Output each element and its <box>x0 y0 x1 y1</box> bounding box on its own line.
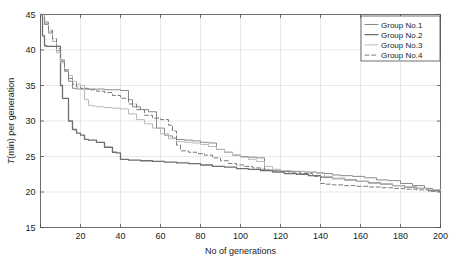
x-tick-label: 120 <box>273 231 288 241</box>
x-tick-label: 80 <box>195 231 205 241</box>
y-tick-label: 30 <box>25 116 35 126</box>
legend-label-3[interactable]: Group No.3 <box>381 41 423 50</box>
x-tick-label: 200 <box>433 231 448 241</box>
figure-container: 15202530354045 2040608010012014016018020… <box>0 0 457 263</box>
legend-label-2[interactable]: Group No.2 <box>381 31 423 40</box>
y-tick-label: 45 <box>25 10 35 20</box>
legend-label-1[interactable]: Group No.1 <box>381 21 423 30</box>
legend-label-4[interactable]: Group No.4 <box>381 51 423 60</box>
x-tick-label: 140 <box>313 231 328 241</box>
x-axis-label: No of generations <box>205 246 277 256</box>
y-axis-label: T(min) per generation <box>6 78 16 165</box>
x-tick-label: 100 <box>233 231 248 241</box>
x-tick-label: 40 <box>115 231 125 241</box>
x-tick-label: 160 <box>353 231 368 241</box>
y-tick-label: 40 <box>25 45 35 55</box>
y-tick-label: 25 <box>25 152 35 162</box>
chart-legend[interactable]: Group No.1Group No.2Group No.3Group No.4 <box>361 16 440 61</box>
y-tick-label: 15 <box>25 223 35 233</box>
x-tick-label: 60 <box>155 231 165 241</box>
x-tick-label: 180 <box>393 231 408 241</box>
y-axis-label-rest: (min) per generation <box>6 78 16 159</box>
y-tick-label: 35 <box>25 81 35 91</box>
x-tick-label: 20 <box>75 231 85 241</box>
line-chart: 15202530354045 2040608010012014016018020… <box>0 0 457 263</box>
y-tick-label: 20 <box>25 187 35 197</box>
